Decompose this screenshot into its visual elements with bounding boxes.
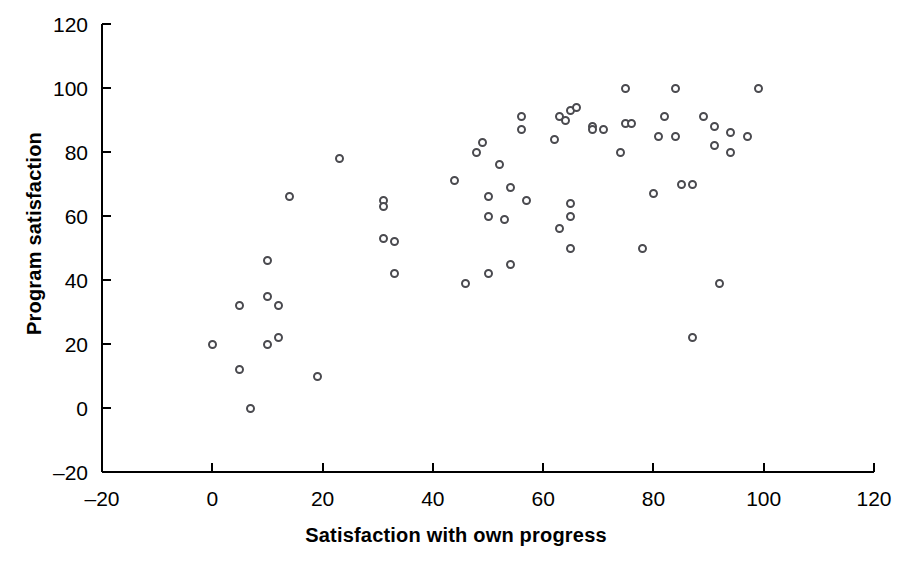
data-point — [715, 279, 724, 288]
x-tick-label: 120 — [856, 488, 891, 509]
data-point — [495, 160, 504, 169]
data-point — [671, 84, 680, 93]
data-point — [379, 234, 388, 243]
data-point — [472, 148, 481, 157]
data-point — [566, 199, 575, 208]
data-point — [660, 112, 669, 121]
data-point — [461, 279, 470, 288]
data-point — [649, 189, 658, 198]
data-point — [263, 340, 272, 349]
y-tick-label: 120 — [24, 14, 88, 35]
data-point — [550, 135, 559, 144]
data-point — [688, 180, 697, 189]
y-tick-label: –20 — [24, 462, 88, 483]
data-point — [500, 215, 509, 224]
data-point — [390, 237, 399, 246]
x-tick-label: –20 — [84, 488, 119, 509]
data-point — [517, 112, 526, 121]
data-point — [671, 132, 680, 141]
data-point — [235, 301, 244, 310]
data-point — [274, 301, 283, 310]
x-tick-label: 0 — [206, 488, 218, 509]
data-point — [726, 128, 735, 137]
x-tick-label: 60 — [531, 488, 554, 509]
x-axis-title: Satisfaction with own progress — [0, 524, 912, 547]
x-tick-label: 20 — [311, 488, 334, 509]
data-point — [699, 112, 708, 121]
data-point — [484, 212, 493, 221]
scatter-chart-figure: –20020406080100120 –20020406080100120 Pr… — [0, 0, 912, 567]
data-point — [726, 148, 735, 157]
data-point — [313, 372, 322, 381]
data-point — [478, 138, 487, 147]
data-point — [638, 244, 647, 253]
data-point — [484, 269, 493, 278]
data-point — [263, 292, 272, 301]
data-point — [677, 180, 686, 189]
data-point — [208, 340, 217, 349]
plot-area — [102, 24, 874, 472]
data-point — [572, 103, 581, 112]
data-point — [561, 116, 570, 125]
data-point — [710, 141, 719, 150]
data-point — [555, 224, 564, 233]
data-point — [566, 212, 575, 221]
data-point — [379, 202, 388, 211]
data-point — [285, 192, 294, 201]
data-point — [506, 183, 515, 192]
data-point — [263, 256, 272, 265]
data-point — [743, 132, 752, 141]
data-point — [710, 122, 719, 131]
data-point — [654, 132, 663, 141]
data-point — [274, 333, 283, 342]
data-point — [517, 125, 526, 134]
data-point — [754, 84, 763, 93]
data-point — [335, 154, 344, 163]
x-tick-label: 80 — [642, 488, 665, 509]
data-point — [506, 260, 515, 269]
data-point — [599, 125, 608, 134]
data-point — [390, 269, 399, 278]
x-tick-label: 100 — [746, 488, 781, 509]
data-point — [621, 84, 630, 93]
x-tick-label: 40 — [421, 488, 444, 509]
y-axis-title: Program satisfaction — [23, 34, 46, 434]
data-point — [616, 148, 625, 157]
data-point — [235, 365, 244, 374]
data-point — [450, 176, 459, 185]
data-point — [627, 119, 636, 128]
data-point — [588, 125, 597, 134]
data-point — [484, 192, 493, 201]
data-point — [688, 333, 697, 342]
data-point — [566, 244, 575, 253]
data-point — [522, 196, 531, 205]
data-point — [246, 404, 255, 413]
